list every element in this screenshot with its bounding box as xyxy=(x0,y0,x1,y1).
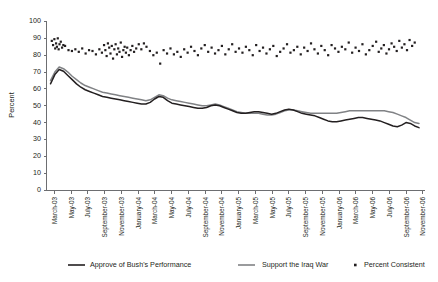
scatter-point xyxy=(112,57,114,59)
scatter-point xyxy=(401,47,403,49)
scatter-point xyxy=(125,52,127,54)
scatter-point xyxy=(74,48,76,50)
scatter-point xyxy=(255,44,257,46)
legend-item[interactable]: Percent Consistent xyxy=(354,260,425,269)
scatter-point xyxy=(403,43,405,45)
scatter-point xyxy=(85,52,87,54)
scatter-point xyxy=(104,49,106,51)
scatter-point xyxy=(361,43,363,45)
scatter-point xyxy=(327,54,329,56)
scatter-point xyxy=(393,46,395,48)
legend-item[interactable]: Approve of Bush's Performance xyxy=(68,260,191,269)
x-tick-label: November-06 xyxy=(419,197,426,236)
scatter-point xyxy=(396,50,398,52)
scatter-point xyxy=(228,48,230,50)
scatter-point xyxy=(143,42,145,44)
x-tick-label: July-06 xyxy=(386,197,394,218)
scatter-point xyxy=(241,52,243,54)
scatter-point xyxy=(60,41,62,43)
scatter-point xyxy=(51,40,53,42)
x-tick-label: May-03 xyxy=(68,197,76,219)
scatter-point xyxy=(272,45,274,47)
scatter-point xyxy=(358,50,360,52)
y-tick-label: 80 xyxy=(33,50,41,59)
scatter-point xyxy=(52,44,54,46)
scatter-point xyxy=(180,56,182,58)
scatter-point xyxy=(398,40,400,42)
x-tick-label: March-04 xyxy=(151,197,158,224)
scatter-point xyxy=(118,51,120,53)
legend-dot-marker xyxy=(354,264,357,267)
x-tick-label: May-05 xyxy=(269,197,277,219)
scatter-point xyxy=(64,45,66,47)
scatter-point xyxy=(156,52,158,54)
scatter-point xyxy=(166,52,168,54)
y-axis-title: Percent xyxy=(7,92,16,117)
scatter-point xyxy=(383,44,385,46)
plot-area xyxy=(51,37,420,127)
scatter-point xyxy=(334,47,336,49)
scatter-point xyxy=(107,42,109,44)
scatter-point xyxy=(269,48,271,50)
scatter-point xyxy=(214,52,216,54)
x-tick-label: January-05 xyxy=(235,197,243,229)
chart-container: Percent 0102030405060708090100 March-03M… xyxy=(0,0,438,282)
x-tick-label: November-04 xyxy=(218,197,225,236)
legend: Approve of Bush's PerformanceSupport the… xyxy=(68,260,425,269)
scatter-point xyxy=(303,47,305,49)
scatter-point xyxy=(111,45,113,47)
x-tick-label: January-06 xyxy=(336,197,344,229)
scatter-point xyxy=(159,63,161,65)
scatter-percent-consistent xyxy=(51,37,416,64)
scatter-point xyxy=(341,46,343,48)
x-tick-label: September-03 xyxy=(101,197,109,238)
scatter-point xyxy=(330,44,332,46)
y-tick-label: 30 xyxy=(33,134,41,143)
x-tick-label: January-04 xyxy=(135,197,143,229)
scatter-point xyxy=(183,48,185,50)
scatter-point xyxy=(279,51,281,53)
legend-label: Support the Iraq War xyxy=(262,260,329,269)
scatter-point xyxy=(190,46,192,48)
scatter-point xyxy=(81,47,83,49)
scatter-point xyxy=(380,47,382,49)
scatter-point xyxy=(378,51,380,53)
scatter-point xyxy=(306,50,308,52)
scatter-point xyxy=(368,49,370,51)
scatter-point xyxy=(133,51,135,53)
scatter-point xyxy=(109,52,111,54)
scatter-point xyxy=(317,52,319,54)
scatter-point xyxy=(388,48,390,50)
scatter-point xyxy=(238,47,240,49)
legend-item[interactable]: Support the Iraq War xyxy=(238,260,329,269)
scatter-point xyxy=(193,50,195,52)
scatter-point xyxy=(354,47,356,49)
scatter-point xyxy=(128,54,130,56)
scatter-point xyxy=(120,41,122,43)
scatter-point xyxy=(130,49,132,51)
scatter-point xyxy=(116,53,118,55)
scatter-point xyxy=(207,51,209,53)
scatter-point xyxy=(61,47,63,49)
scatter-point xyxy=(163,49,165,51)
scatter-point xyxy=(113,48,115,50)
scatter-point xyxy=(140,48,142,50)
scatter-point xyxy=(217,49,219,51)
scatter-point xyxy=(115,43,117,45)
line-support-iraq-war xyxy=(51,67,420,123)
x-tick-label: July-05 xyxy=(285,197,293,218)
scatter-point xyxy=(135,47,137,49)
scatter-point xyxy=(211,47,213,49)
scatter-point xyxy=(293,49,295,51)
x-tick-label: March-06 xyxy=(352,197,359,224)
scatter-point xyxy=(385,52,387,54)
scatter-point xyxy=(289,52,291,54)
scatter-point xyxy=(375,41,377,43)
scatter-point xyxy=(117,47,119,49)
scatter-point xyxy=(320,45,322,47)
scatter-point xyxy=(414,41,416,43)
scatter-point xyxy=(248,49,250,51)
x-axis-ticks: March-03May-03July-03September-03Novembe… xyxy=(51,190,426,238)
x-tick-label: September-04 xyxy=(202,197,210,238)
scatter-point xyxy=(324,49,326,51)
